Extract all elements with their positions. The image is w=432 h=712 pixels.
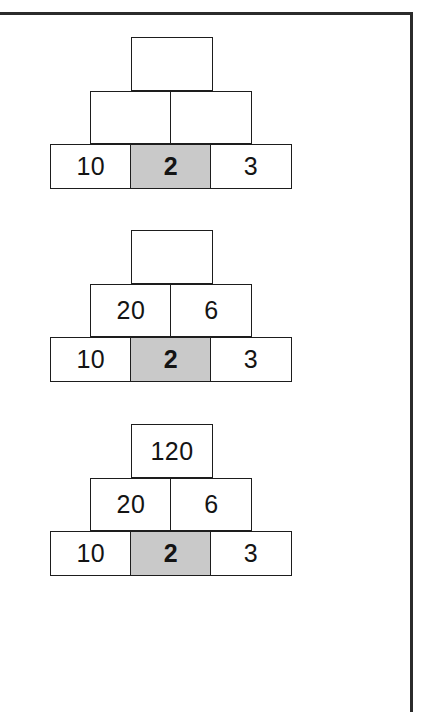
pyramid-1-base-cell-1[interactable]: 10	[50, 144, 132, 189]
pyramid-3-middle-cell-2[interactable]: 6	[170, 478, 252, 531]
pyramid-3-row-base: 10 2 3	[50, 533, 295, 578]
pyramid-2-row-base: 10 2 3	[50, 339, 295, 384]
pyramid-2-middle-cell-2[interactable]: 6	[170, 284, 252, 337]
pyramid-3-base-cell-1[interactable]: 10	[50, 531, 132, 576]
pyramid-2-middle-cell-1[interactable]: 20	[90, 284, 172, 337]
pyramid-3-top-cell-1[interactable]: 120	[131, 424, 213, 478]
pyramid-1-top-cell-1[interactable]	[131, 37, 213, 91]
pyramid-2: 20 6 10 2 3	[50, 232, 295, 384]
pyramid-2-top-cell-1[interactable]	[131, 230, 213, 284]
pyramid-1-base-cell-2[interactable]: 2	[130, 144, 212, 189]
pyramid-1-row-top	[131, 39, 213, 93]
pyramid-3-base-cell-2[interactable]: 2	[130, 531, 212, 576]
pyramid-3-base-cell-3[interactable]: 3	[210, 531, 292, 576]
pyramid-3-row-top: 120	[131, 426, 213, 480]
pyramid-2-row-top	[131, 232, 213, 286]
pyramid-1-row-base: 10 2 3	[50, 146, 295, 191]
pyramid-3: 120 20 6 10 2 3	[50, 426, 295, 578]
pyramid-1-row-middle	[90, 93, 254, 146]
pyramid-1-base-cell-3[interactable]: 3	[210, 144, 292, 189]
pyramid-2-base-cell-2[interactable]: 2	[130, 337, 212, 382]
pyramid-2-row-middle: 20 6	[90, 286, 254, 339]
pyramid-2-base-cell-3[interactable]: 3	[210, 337, 292, 382]
pyramid-1: 10 2 3	[50, 39, 295, 191]
pyramid-1-middle-cell-2[interactable]	[170, 91, 252, 144]
pyramid-3-middle-cell-1[interactable]: 20	[90, 478, 172, 531]
pyramid-3-row-middle: 20 6	[90, 480, 254, 533]
pyramid-2-base-cell-1[interactable]: 10	[50, 337, 132, 382]
pyramid-1-middle-cell-1[interactable]	[90, 91, 172, 144]
